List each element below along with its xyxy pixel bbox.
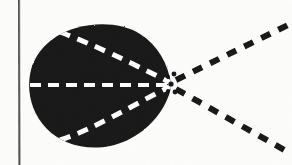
- focus-speck-4: [166, 89, 170, 93]
- left-rule: [19, 0, 20, 165]
- focus-speck-2: [173, 90, 178, 95]
- focus-speck-3: [166, 75, 170, 79]
- figure-container: Scanned line-art diagram: dark lobe with…: [0, 0, 292, 165]
- focus-point: [168, 81, 173, 86]
- diagram-canvas: [0, 0, 292, 165]
- focus-speck-1: [172, 72, 177, 77]
